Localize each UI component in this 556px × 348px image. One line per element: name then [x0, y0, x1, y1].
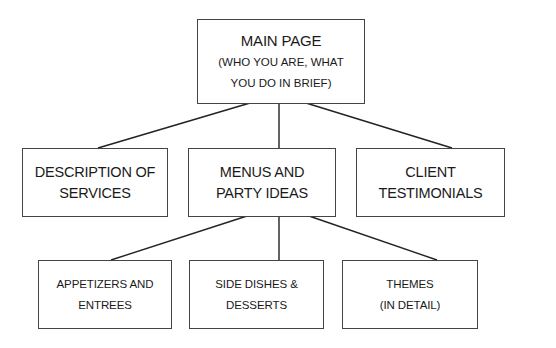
- node-label: PARTY IDEAS: [216, 183, 308, 204]
- node-label: DESCRIPTION OF: [35, 162, 155, 183]
- node-title: MAIN PAGE: [241, 30, 321, 52]
- node-description-of-services: DESCRIPTION OF SERVICES: [22, 148, 168, 217]
- node-main-page: MAIN PAGE (WHO YOU ARE, WHAT YOU DO IN B…: [197, 19, 365, 104]
- node-themes-in-detail: THEMES (IN DETAIL): [342, 260, 478, 329]
- node-label: (IN DETAIL): [380, 295, 441, 316]
- node-label: TESTIMONIALS: [379, 183, 483, 204]
- node-client-testimonials: CLIENT TESTIMONIALS: [356, 148, 505, 217]
- node-label: MENUS AND: [220, 162, 304, 183]
- node-side-dishes-and-desserts: SIDE DISHES & DESSERTS: [189, 260, 324, 329]
- node-label: ENTREES: [78, 295, 132, 316]
- edge-menus-themes: [309, 216, 437, 260]
- edge-main-services: [98, 103, 250, 148]
- node-subtitle: (WHO YOU ARE, WHAT: [218, 52, 343, 73]
- node-menus-and-party-ideas: MENUS AND PARTY IDEAS: [188, 148, 336, 217]
- node-appetizers-and-entrees: APPETIZERS AND ENTREES: [38, 260, 172, 329]
- node-label: DESSERTS: [226, 295, 287, 316]
- node-label: SERVICES: [59, 183, 130, 204]
- edge-main-testimonials: [306, 103, 452, 148]
- node-label: SIDE DISHES &: [215, 274, 297, 295]
- node-subtitle: YOU DO IN BRIEF): [231, 73, 332, 94]
- node-label: CLIENT: [405, 162, 455, 183]
- node-label: APPETIZERS AND: [56, 274, 153, 295]
- edge-menus-appetizers: [111, 216, 247, 260]
- node-label: THEMES: [386, 274, 433, 295]
